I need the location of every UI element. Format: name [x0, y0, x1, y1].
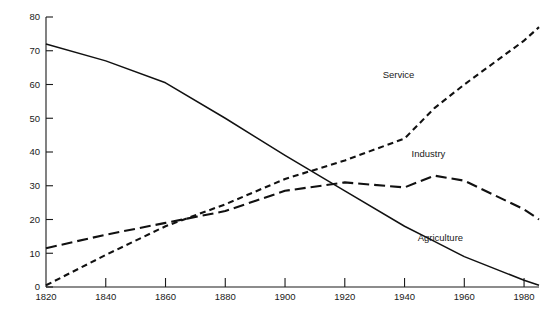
- y-tick-label: 80: [29, 11, 40, 22]
- y-tick-label: 70: [29, 45, 40, 56]
- x-axis-tick-labels: 182018401860188019001920194019601980: [35, 291, 534, 302]
- x-tick-label: 1940: [394, 291, 415, 302]
- y-tick-label: 30: [29, 180, 40, 191]
- series-line-industry: [46, 176, 539, 249]
- x-tick-label: 1980: [513, 291, 534, 302]
- y-axis-tick-labels: 01020304050607080: [29, 11, 40, 292]
- x-tick-label: 1840: [95, 291, 116, 302]
- y-tick-label: 50: [29, 113, 40, 124]
- y-tick-label: 40: [29, 146, 40, 157]
- series-label-industry: Industry: [412, 148, 446, 159]
- series-label-agriculture: Agriculture: [418, 232, 463, 243]
- x-tick-label: 1820: [35, 291, 56, 302]
- x-tick-label: 1920: [334, 291, 355, 302]
- x-tick-label: 1900: [274, 291, 295, 302]
- x-tick-label: 1860: [155, 291, 176, 302]
- y-axis: 01020304050607080: [29, 11, 53, 292]
- x-tick-label: 1960: [454, 291, 475, 302]
- y-tick-label: 20: [29, 214, 40, 225]
- y-tick-label: 10: [29, 248, 40, 259]
- x-tick-label: 1880: [215, 291, 236, 302]
- chart-container: 01020304050607080 1820184018601880190019…: [0, 0, 545, 314]
- x-axis-ticks: [106, 278, 524, 287]
- labor-force-composition-line-chart: 01020304050607080 1820184018601880190019…: [0, 0, 545, 314]
- x-axis: 182018401860188019001920194019601980: [35, 278, 539, 302]
- y-tick-label: 60: [29, 79, 40, 90]
- data-series-group: [46, 27, 539, 285]
- series-label-service: Service: [383, 69, 415, 80]
